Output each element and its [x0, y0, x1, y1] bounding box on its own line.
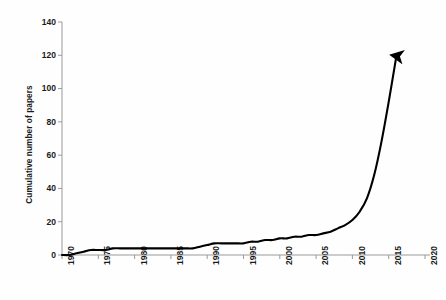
data-series-line	[62, 59, 396, 256]
plot-area	[0, 0, 446, 300]
x-axis	[62, 255, 430, 259]
y-axis-ticks	[58, 22, 62, 255]
y-axis	[58, 22, 62, 255]
x-axis-ticks	[62, 255, 425, 259]
chart-container: Cumulative number of papers 140 120 100 …	[0, 0, 446, 300]
